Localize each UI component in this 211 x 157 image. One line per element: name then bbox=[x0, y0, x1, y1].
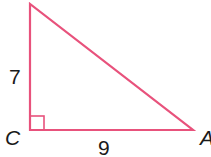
triangle-diagram bbox=[0, 0, 211, 157]
side-label-horizontal: 9 bbox=[98, 137, 110, 157]
vertex-label-c: C bbox=[5, 127, 20, 148]
triangle-shape bbox=[30, 4, 193, 130]
right-angle-marker bbox=[30, 116, 44, 130]
vertex-label-a: A bbox=[200, 127, 211, 148]
side-label-vertical: 7 bbox=[9, 66, 21, 87]
